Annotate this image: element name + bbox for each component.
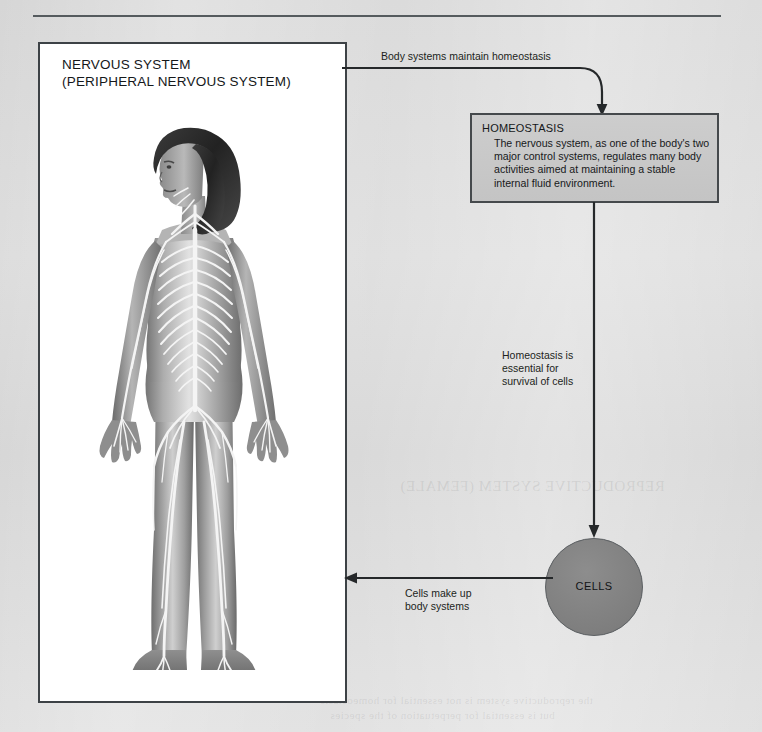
homeostasis-box: HOMEOSTASIS The nervous system, as one o… — [470, 113, 719, 203]
cells-node-label: CELLS — [546, 580, 642, 592]
cells-node: CELLS — [545, 538, 643, 636]
header-rule — [33, 15, 721, 17]
homeostasis-body-text: The nervous system, as one of the body's… — [494, 137, 712, 190]
nervous-system-panel: NERVOUS SYSTEM (PERIPHERAL NERVOUS SYSTE… — [38, 42, 347, 703]
human-body-nervous-system-illustration — [92, 110, 297, 670]
connector-label-top: Body systems maintain homeostasis — [381, 50, 551, 62]
nervous-system-title-line1: NERVOUS SYSTEM — [62, 56, 291, 73]
homeostasis-title: HOMEOSTASIS — [482, 122, 564, 134]
connector-label-bottom-line1: Cells make up — [405, 587, 472, 600]
connector-label-middle-line1: Homeostasis is — [502, 349, 573, 362]
connector-label-middle-line3: survival of cells — [502, 375, 573, 388]
connector-label-middle-line2: essential for — [502, 362, 573, 375]
nervous-system-title-line2: (PERIPHERAL NERVOUS SYSTEM) — [62, 73, 291, 90]
nervous-system-title: NERVOUS SYSTEM (PERIPHERAL NERVOUS SYSTE… — [62, 56, 291, 90]
diagram-page: REPRODUCTIVE SYSTEM (FEMALE) the reprodu… — [0, 0, 762, 732]
connector-label-middle: Homeostasis is essential for survival of… — [502, 349, 573, 388]
connector-label-bottom-line2: body systems — [405, 600, 472, 613]
connector-label-bottom: Cells make up body systems — [405, 587, 472, 613]
